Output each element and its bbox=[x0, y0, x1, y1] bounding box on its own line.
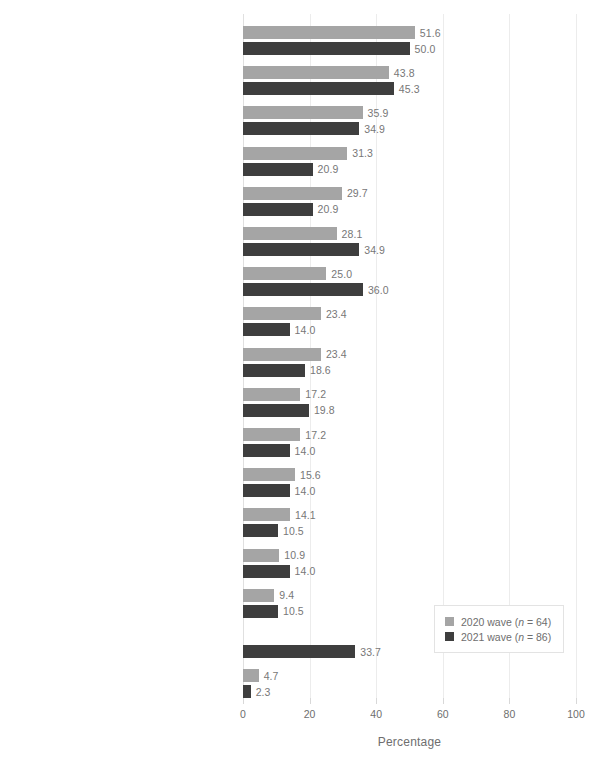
bar-group-series-2: 10.5 bbox=[243, 605, 304, 618]
bar bbox=[243, 42, 410, 55]
bar-value-label: 17.2 bbox=[305, 388, 326, 400]
bar-row: Disruptions in work history29.720.9 bbox=[243, 187, 576, 216]
bar bbox=[243, 508, 290, 521]
tick-mark-40 bbox=[376, 698, 377, 704]
bar-group-series-1: 43.8 bbox=[243, 66, 415, 79]
bar-group-series-2: 34.9 bbox=[243, 243, 385, 256]
legend-label-2021: 2021 wave (n = 86) bbox=[461, 631, 551, 643]
bar-group-series-1: 29.7 bbox=[243, 187, 368, 200]
bar-rows: Own physical or behavioral health condit… bbox=[243, 14, 576, 704]
bar bbox=[243, 428, 300, 441]
bar-row: Changing geographic locations31.320.9 bbox=[243, 147, 576, 176]
bar bbox=[243, 685, 251, 698]
bar-value-label: 14.0 bbox=[295, 565, 316, 577]
bar-group-series-2: 2.3 bbox=[243, 685, 271, 698]
bar-group-series-2: 20.9 bbox=[243, 203, 338, 216]
bar-row: Unfair treatment due to personal charact… bbox=[243, 549, 576, 578]
bar-value-label: 23.4 bbox=[326, 348, 347, 360]
bar-group-series-2: 20.9 bbox=[243, 163, 338, 176]
bar bbox=[243, 203, 313, 216]
bar bbox=[243, 227, 337, 240]
legend-item-2020: 2020 wave (n = 64) bbox=[445, 614, 551, 629]
legend-swatch-2020 bbox=[445, 617, 454, 626]
bar-row: Challenges securing funding for my busin… bbox=[243, 388, 576, 417]
bar-value-label: 35.9 bbox=[368, 107, 389, 119]
tick-mark-0 bbox=[243, 698, 244, 704]
bar-value-label: 20.9 bbox=[318, 203, 339, 215]
bar-group-series-1: 15.6 bbox=[243, 468, 321, 481]
bar-group-series-1: 14.1 bbox=[243, 508, 316, 521]
bar-value-label: 36.0 bbox=[368, 284, 389, 296]
bar bbox=[243, 106, 363, 119]
bar-value-label: 9.4 bbox=[279, 589, 294, 601]
bar-row: Family's physical or behavioral health c… bbox=[243, 227, 576, 256]
bar-group-series-2: 14.0 bbox=[243, 565, 315, 578]
bar-row: None4.72.3 bbox=[243, 669, 576, 698]
bar-value-label: 23.4 bbox=[326, 308, 347, 320]
bar-value-label: 31.3 bbox=[352, 147, 373, 159]
bar-value-label: 10.5 bbox=[283, 605, 304, 617]
bar-group-series-1: 35.9 bbox=[243, 106, 388, 119]
bar-group-series-2: 10.5 bbox=[243, 524, 304, 537]
bar-value-label: 28.1 bbox=[342, 228, 363, 240]
bar-row: Lack of understanding of needs in the wo… bbox=[243, 508, 576, 537]
tick-mark-20 bbox=[310, 698, 311, 704]
bar bbox=[243, 348, 321, 361]
bar-group-series-1: 51.6 bbox=[243, 26, 441, 39]
bar bbox=[243, 468, 295, 481]
plot-area: Own physical or behavioral health condit… bbox=[243, 14, 576, 704]
bar bbox=[243, 645, 355, 658]
bar-value-label: 10.5 bbox=[283, 525, 304, 537]
bar-group-series-1: 28.1 bbox=[243, 227, 362, 240]
bar-group-series-2: 36.0 bbox=[243, 283, 389, 296]
bar-group-series-2: 18.6 bbox=[243, 364, 331, 377]
bar-value-label: 17.2 bbox=[305, 429, 326, 441]
bar-value-label: 14.0 bbox=[295, 324, 316, 336]
bar-group-series-1: 17.2 bbox=[243, 428, 326, 441]
bar-group-series-2: 19.8 bbox=[243, 404, 335, 417]
legend-label-2020: 2020 wave (n = 64) bbox=[461, 616, 551, 628]
bar-group-series-1: 10.9 bbox=[243, 549, 305, 562]
bar-value-label: 18.6 bbox=[310, 364, 331, 376]
bar bbox=[243, 364, 305, 377]
bar bbox=[243, 267, 326, 280]
tick-mark-80 bbox=[509, 698, 510, 704]
bar bbox=[243, 243, 359, 256]
bar-value-label: 29.7 bbox=[347, 187, 368, 199]
bar-value-label: 2.3 bbox=[256, 686, 271, 698]
bar-group-series-2: 14.0 bbox=[243, 484, 315, 497]
bar-value-label: 20.9 bbox=[318, 163, 339, 175]
bar-value-label: 45.3 bbox=[399, 83, 420, 95]
bar-row: Othera23.414.0 bbox=[243, 307, 576, 336]
bar bbox=[243, 669, 259, 682]
bar-row: Current credit status or lack of savings… bbox=[243, 428, 576, 457]
tick-mark-60 bbox=[443, 698, 444, 704]
bar-value-label: 43.8 bbox=[394, 67, 415, 79]
bar-group-series-2: 14.0 bbox=[243, 323, 315, 336]
bar-group-series-1: 23.4 bbox=[243, 307, 347, 320]
bar-row: Own physical or behavioral health condit… bbox=[243, 26, 576, 55]
bar-row: Concerns about maintaining my disability… bbox=[243, 468, 576, 497]
bar-value-label: 50.0 bbox=[415, 43, 436, 55]
x-tick-label-60: 60 bbox=[437, 708, 449, 720]
bar-row: Managing family needs43.845.3 bbox=[243, 66, 576, 95]
bar-value-label: 15.6 bbox=[300, 469, 321, 481]
bar bbox=[243, 549, 279, 562]
bar-group-series-2: 33.7 bbox=[243, 645, 381, 658]
bar-value-label: 14.0 bbox=[295, 445, 316, 457]
bar-value-label: 14.1 bbox=[295, 509, 316, 521]
bar-value-label: 34.9 bbox=[364, 123, 385, 135]
bar-group-series-1: 31.3 bbox=[243, 147, 373, 160]
bar bbox=[243, 323, 290, 336]
x-tick-label-100: 100 bbox=[567, 708, 585, 720]
bar-row: Challenges maintaining connections with … bbox=[243, 267, 576, 296]
bar bbox=[243, 283, 363, 296]
bar bbox=[243, 404, 309, 417]
bar bbox=[243, 444, 290, 457]
bar-value-label: 34.9 bbox=[364, 244, 385, 256]
bar-row: Relationship challenges35.934.9 bbox=[243, 106, 576, 135]
gridline-100 bbox=[576, 14, 577, 704]
x-tick-label-80: 80 bbox=[504, 708, 516, 720]
bar-group-series-1: 25.0 bbox=[243, 267, 352, 280]
x-axis: 020406080100 bbox=[243, 704, 576, 732]
